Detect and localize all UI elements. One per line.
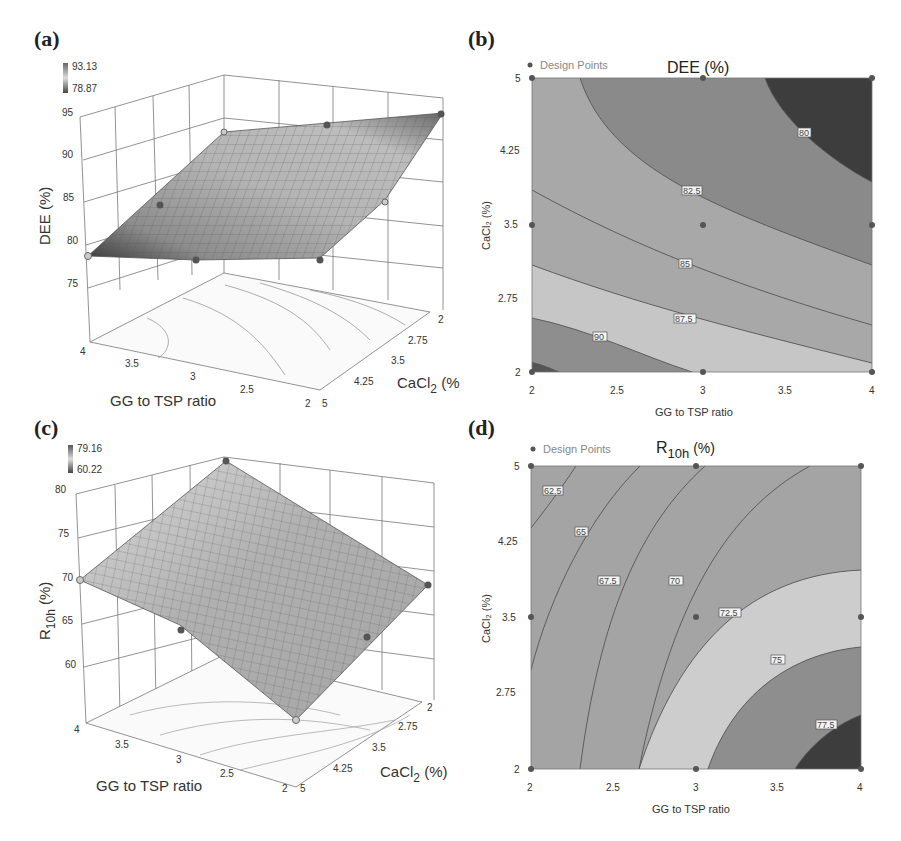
z-ticks-c: 8075 706560 <box>55 484 77 670</box>
colorbar-a-min: 78.87 <box>72 83 97 94</box>
svg-text:70: 70 <box>670 576 680 586</box>
svg-text:2.75: 2.75 <box>408 335 428 346</box>
colorbar-a-max: 93.13 <box>72 61 97 72</box>
svg-text:3: 3 <box>176 754 182 765</box>
svg-text:65: 65 <box>62 615 74 626</box>
svg-text:4: 4 <box>869 385 875 396</box>
svg-text:2: 2 <box>427 702 433 713</box>
svg-text:85: 85 <box>680 259 690 269</box>
x-axis-title-d: GG to TSP ratio <box>652 803 730 815</box>
panel-d: (d) Design Points R10h (%) 62.5 65 67.5 <box>460 415 901 841</box>
svg-text:75: 75 <box>67 278 79 289</box>
svg-text:3: 3 <box>700 385 706 396</box>
svg-text:3.5: 3.5 <box>372 742 386 753</box>
svg-text:2: 2 <box>282 783 288 794</box>
svg-text:87.5: 87.5 <box>675 314 693 324</box>
svg-text:95: 95 <box>62 107 74 118</box>
svg-text:2.75: 2.75 <box>496 687 516 698</box>
panel-b-letter: (b) <box>468 26 495 52</box>
svg-text:80: 80 <box>55 484 67 495</box>
plot-title-b: DEE (%) <box>667 59 729 76</box>
svg-text:75: 75 <box>772 655 782 665</box>
z-axis-title-a: DEE (%) <box>36 187 53 245</box>
surface-plot-c: 79.16 60.22 <box>0 415 460 841</box>
svg-text:2.75: 2.75 <box>398 721 418 732</box>
svg-text:85: 85 <box>63 192 75 203</box>
svg-text:5: 5 <box>514 461 520 472</box>
y-ticks-b: 54.25 3.52.752 <box>498 73 521 378</box>
y-axis-title-b: CaCl₂ (%) <box>480 201 492 250</box>
legend-marker-b <box>528 63 533 68</box>
y-axis-title-c: CaCl2 (%) <box>380 763 448 785</box>
svg-text:2.5: 2.5 <box>606 782 620 793</box>
contour-plot-d: Design Points R10h (%) 62.5 65 67.5 70 7… <box>460 415 901 841</box>
svg-text:3.5: 3.5 <box>115 739 129 750</box>
svg-text:90: 90 <box>62 149 74 160</box>
svg-text:5: 5 <box>300 783 306 794</box>
svg-text:82.5: 82.5 <box>683 186 701 196</box>
svg-text:3: 3 <box>693 782 699 793</box>
legend-label-d: Design Points <box>543 443 611 455</box>
svg-text:80: 80 <box>67 235 79 246</box>
svg-text:2: 2 <box>305 398 311 409</box>
svg-text:2: 2 <box>514 764 520 775</box>
panel-a: (a) 93.13 78.87 <box>0 0 460 420</box>
y-axis-title-d: CaCl₂ (%) <box>480 594 492 643</box>
svg-text:4.25: 4.25 <box>498 536 518 547</box>
svg-text:75: 75 <box>58 528 70 539</box>
svg-text:72.5: 72.5 <box>720 608 738 618</box>
svg-text:70: 70 <box>62 572 74 583</box>
x-axis-title-c: GG to TSP ratio <box>96 777 202 794</box>
panel-a-letter: (a) <box>34 26 60 52</box>
svg-text:2: 2 <box>438 314 444 325</box>
colorbar-a <box>63 63 68 93</box>
contour-plot-b: Design Points DEE (%) 80 82.5 85 87.5 90 <box>460 0 901 420</box>
svg-text:77.5: 77.5 <box>817 720 835 730</box>
legend-label-b: Design Points <box>540 59 608 71</box>
svg-text:4.25: 4.25 <box>333 763 353 774</box>
colorbar-c-max: 79.16 <box>77 443 102 454</box>
surface-plot-a: 93.13 78.87 <box>0 0 460 420</box>
plot-title-d: R10h (%) <box>656 439 715 461</box>
y-axis-title-a: CaCl2 (%) <box>397 374 460 396</box>
svg-text:2.75: 2.75 <box>498 293 518 304</box>
svg-text:2.5: 2.5 <box>220 768 234 779</box>
svg-text:4: 4 <box>74 724 80 735</box>
z-ticks-a: 9590 858075 <box>62 107 79 289</box>
svg-text:4.25: 4.25 <box>354 376 374 387</box>
svg-text:4: 4 <box>80 346 86 357</box>
svg-text:5: 5 <box>515 73 521 84</box>
z-axis-title-c: R10h (%) <box>36 582 58 640</box>
svg-text:2.5: 2.5 <box>240 384 254 395</box>
svg-text:4: 4 <box>857 782 863 793</box>
svg-text:2: 2 <box>529 385 535 396</box>
panel-b: (b) Design Points DEE (%) 80 82.5 85 87.… <box>460 0 901 420</box>
svg-text:65: 65 <box>576 527 586 537</box>
svg-text:2: 2 <box>515 367 521 378</box>
y-ticks-d: 54.25 3.52.752 <box>496 461 520 775</box>
colorbar-c-min: 60.22 <box>77 464 102 475</box>
svg-text:5: 5 <box>322 398 328 409</box>
svg-text:67.5: 67.5 <box>599 576 617 586</box>
svg-text:3.5: 3.5 <box>778 385 792 396</box>
panel-c-letter: (c) <box>34 415 58 441</box>
x-ticks-d: 22.5 33.54 <box>527 782 863 793</box>
svg-text:3.5: 3.5 <box>504 219 518 230</box>
svg-text:80: 80 <box>799 128 809 138</box>
svg-text:2: 2 <box>527 782 533 793</box>
svg-text:3.5: 3.5 <box>502 612 516 623</box>
panel-d-letter: (d) <box>468 415 495 441</box>
colorbar-c <box>68 445 73 473</box>
svg-text:2.5: 2.5 <box>610 385 624 396</box>
svg-text:3.5: 3.5 <box>391 355 405 366</box>
x-axis-title-a: GG to TSP ratio <box>110 392 216 409</box>
x-ticks-b: 22.5 33.54 <box>529 385 875 396</box>
legend-marker-d <box>531 447 536 452</box>
svg-text:3.5: 3.5 <box>125 358 139 369</box>
svg-text:3.5: 3.5 <box>770 782 784 793</box>
svg-text:90: 90 <box>594 332 604 342</box>
svg-text:3: 3 <box>190 371 196 382</box>
svg-text:60: 60 <box>65 659 77 670</box>
svg-text:62.5: 62.5 <box>544 486 562 496</box>
svg-text:4.25: 4.25 <box>500 145 520 156</box>
